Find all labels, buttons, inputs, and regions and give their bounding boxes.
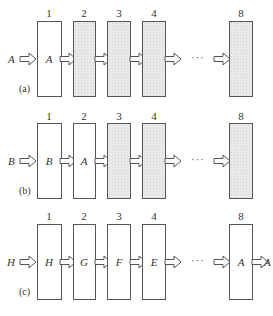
stage-index: 3 [107, 210, 131, 222]
stage-index: 2 [72, 7, 96, 19]
stage-index: 2 [72, 110, 96, 122]
stage-index: 1 [37, 110, 61, 122]
arrow-icon [214, 155, 230, 167]
stage-index: 8 [229, 110, 253, 122]
arrow-icon [20, 256, 36, 268]
stage-content: F [107, 256, 131, 268]
arrow-icon [20, 53, 36, 65]
row-c-caption: (c) [19, 286, 30, 297]
stage-box-4 [142, 123, 166, 199]
stage-index: 4 [142, 210, 166, 222]
arrow-icon [20, 155, 36, 167]
stage-content: A [229, 256, 253, 268]
ellipsis: ··· [191, 254, 205, 266]
stage-content: E [142, 256, 166, 268]
stage-content: G [72, 256, 96, 268]
stage-index: 1 [37, 7, 61, 19]
row-b-caption: (b) [19, 185, 31, 196]
stage-index: 2 [72, 210, 96, 222]
stage-index: 4 [142, 7, 166, 19]
stage-box-8 [229, 123, 253, 199]
arrow-icon [165, 155, 181, 167]
stage-box-3 [107, 21, 131, 97]
stage-content: A [37, 53, 61, 65]
row-c-input-label: H [7, 256, 15, 268]
stage-index: 3 [107, 110, 131, 122]
stage-index: 4 [142, 110, 166, 122]
arrow-icon [214, 256, 230, 268]
row-c-output-label: A [264, 256, 271, 268]
row-b-input-label: B [8, 155, 15, 167]
stage-content: A [72, 155, 96, 167]
stage-index: 8 [229, 7, 253, 19]
stage-index: 8 [229, 210, 253, 222]
stage-index: 3 [107, 7, 131, 19]
stage-box-4 [142, 21, 166, 97]
arrow-icon [165, 256, 181, 268]
stage-content: B [37, 155, 61, 167]
stage-box-8 [229, 21, 253, 97]
stage-box-2 [73, 21, 96, 97]
ellipsis: ··· [191, 153, 205, 165]
stage-box-3 [107, 123, 131, 199]
row-a-caption: (a) [19, 83, 30, 94]
row-a-input-label: A [8, 53, 15, 65]
arrow-icon [214, 53, 230, 65]
arrow-icon [165, 53, 181, 65]
ellipsis: ··· [191, 51, 205, 63]
stage-content: H [37, 256, 61, 268]
stage-index: 1 [37, 210, 61, 222]
